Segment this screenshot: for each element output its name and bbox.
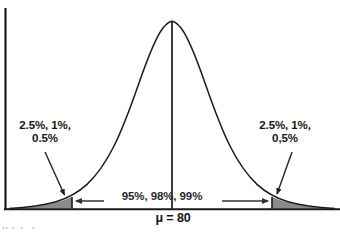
clipped-caption-text: ·· · · · <box>2 224 152 234</box>
central-interval-label: 95%, 98%, 99% <box>104 190 220 203</box>
right-callout-arrow <box>277 152 292 194</box>
left-tail-percentage-label: 2.5%, 1%, 0.5% <box>8 119 82 145</box>
right-tail-percentage-label: 2.5%, 1%, 0,5% <box>246 119 324 145</box>
normal-distribution-figure: 2.5%, 1%, 0.5% 2.5%, 1%, 0,5% 95%, 98%, … <box>0 0 340 234</box>
left-callout-arrow <box>45 152 65 195</box>
mean-value-label: μ = 80 <box>130 211 216 225</box>
